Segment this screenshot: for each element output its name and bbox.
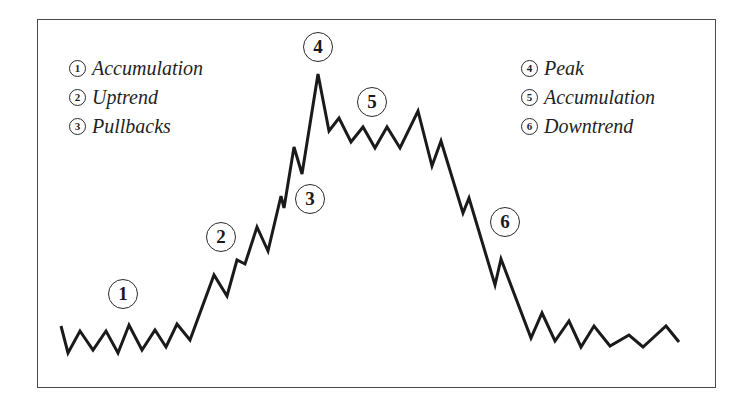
legend-right: 4 Peak 5 Accumulation 6 Downtrend: [521, 54, 655, 141]
legend-item-uptrend: 2 Uptrend: [69, 83, 203, 112]
phase-marker-3: 3: [295, 184, 325, 214]
phase-marker-4: 4: [303, 32, 333, 62]
legend-item-pullbacks: 3 Pullbacks: [69, 112, 203, 141]
phase-marker-1: 1: [108, 279, 138, 309]
circled-number-icon: 3: [69, 118, 86, 135]
legend-label: Uptrend: [92, 83, 158, 112]
circled-number-icon: 6: [521, 118, 538, 135]
phase-marker-6: 6: [490, 207, 520, 237]
legend-item-downtrend: 6 Downtrend: [521, 112, 655, 141]
legend-left: 1 Accumulation 2 Uptrend 3 Pullbacks: [69, 54, 203, 141]
legend-label: Accumulation: [544, 83, 655, 112]
legend-label: Peak: [544, 54, 584, 83]
legend-item-accumulation: 1 Accumulation: [69, 54, 203, 83]
circled-number-icon: 1: [69, 60, 86, 77]
legend-label: Downtrend: [544, 112, 633, 141]
circled-number-icon: 4: [521, 60, 538, 77]
phase-marker-5: 5: [357, 87, 387, 117]
legend-label: Pullbacks: [92, 112, 171, 141]
phase-marker-2: 2: [206, 222, 236, 252]
legend-item-accumulation-2: 5 Accumulation: [521, 83, 655, 112]
legend-label: Accumulation: [92, 54, 203, 83]
circled-number-icon: 5: [521, 89, 538, 106]
circled-number-icon: 2: [69, 89, 86, 106]
legend-item-peak: 4 Peak: [521, 54, 655, 83]
